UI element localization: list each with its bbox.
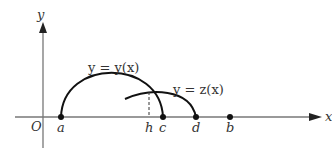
y-curve — [61, 73, 163, 117]
y-curve-label: y = y(x) — [87, 60, 139, 75]
point-h-label: h — [145, 120, 153, 135]
point-d-label: d — [192, 120, 200, 135]
diagram-canvas: y x O a h c d b y = y(x) y = z(x) — [0, 0, 332, 155]
y-axis-label: y — [36, 7, 45, 22]
origin-label: O — [31, 119, 42, 134]
point-c-label: c — [159, 120, 167, 135]
x-axis-arrow-icon — [309, 113, 322, 121]
point-a-label: a — [57, 120, 65, 135]
y-axis-arrow-icon — [39, 22, 47, 33]
x-axis-label: x — [325, 109, 332, 124]
diagram-svg: y x O a h c d b y = y(x) y = z(x) — [0, 0, 332, 155]
point-b-label: b — [226, 120, 234, 135]
z-curve-label: y = z(x) — [172, 82, 224, 97]
